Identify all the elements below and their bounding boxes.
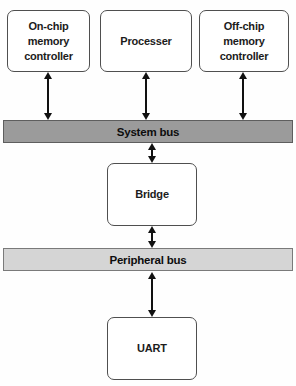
arrow-shaft: [151, 277, 153, 312]
arrow-head-down-icon: [148, 241, 156, 248]
node-processer: Processer: [100, 10, 192, 72]
system-bus-label: System bus: [117, 126, 180, 138]
node-offchip-label: Off-chip memory controller: [220, 19, 269, 64]
system-architecture-diagram: On-chip memory controller Processer Off-…: [0, 0, 296, 386]
arrow-onchip-to-systembus: [44, 72, 52, 120]
arrow-offchip-to-systembus: [239, 72, 247, 120]
arrow-head-down-icon: [142, 113, 150, 120]
node-processer-label: Processer: [120, 34, 171, 49]
arrow-head-down-icon: [44, 113, 52, 120]
node-onchip-memory-controller: On-chip memory controller: [7, 10, 90, 72]
arrow-bridge-to-peripheralbus: [148, 226, 156, 248]
peripheral-bus: Peripheral bus: [3, 248, 293, 271]
peripheral-bus-label: Peripheral bus: [109, 254, 186, 266]
arrow-head-down-icon: [148, 156, 156, 163]
node-offchip-memory-controller: Off-chip memory controller: [199, 10, 289, 72]
arrow-systembus-to-bridge: [148, 143, 156, 163]
arrow-peripheralbus-to-uart: [148, 272, 156, 317]
arrow-shaft: [145, 77, 147, 115]
node-uart: UART: [107, 317, 197, 380]
node-onchip-label: On-chip memory controller: [24, 19, 73, 64]
arrow-head-down-icon: [148, 310, 156, 317]
node-bridge-label: Bridge: [135, 187, 169, 202]
node-bridge: Bridge: [107, 163, 197, 226]
arrow-head-down-icon: [239, 113, 247, 120]
arrow-processer-to-systembus: [142, 72, 150, 120]
arrow-shaft: [47, 77, 49, 115]
system-bus: System bus: [3, 120, 293, 143]
node-uart-label: UART: [137, 341, 167, 356]
arrow-shaft: [242, 77, 244, 115]
